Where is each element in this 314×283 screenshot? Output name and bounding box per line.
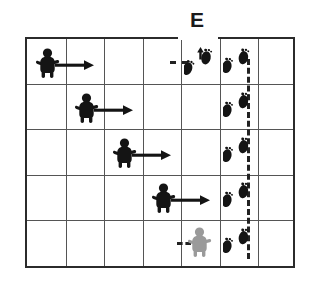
actor-2-arrow-right	[94, 104, 134, 116]
feet-r5-c6	[223, 227, 257, 257]
entry-label-e: E	[190, 9, 204, 30]
actor-4-arrow-right	[171, 194, 211, 206]
grid-vline-2	[104, 39, 105, 266]
actor-1-arrow-right	[55, 59, 95, 71]
grid-hline-4	[27, 220, 293, 221]
actor-5-figure-gray	[187, 227, 213, 257]
feet-r2-c6	[223, 91, 257, 121]
feet-r3-c6	[223, 136, 257, 166]
grid-hline-2	[27, 129, 293, 130]
actor-3-arrow-right	[132, 149, 172, 161]
diagram-canvas: E	[0, 0, 314, 283]
grid-hline-3	[27, 175, 293, 176]
feet-r4-c6	[223, 181, 257, 211]
grid-container	[25, 37, 295, 268]
top-border-gap	[178, 36, 218, 40]
grid-vline-6	[258, 39, 259, 266]
grid-vline-4	[181, 39, 182, 266]
feet-r1-c5	[184, 46, 222, 78]
grid-hline-1	[27, 84, 293, 85]
grid-vline-1	[66, 39, 67, 266]
feet-r1-c6	[223, 47, 257, 77]
